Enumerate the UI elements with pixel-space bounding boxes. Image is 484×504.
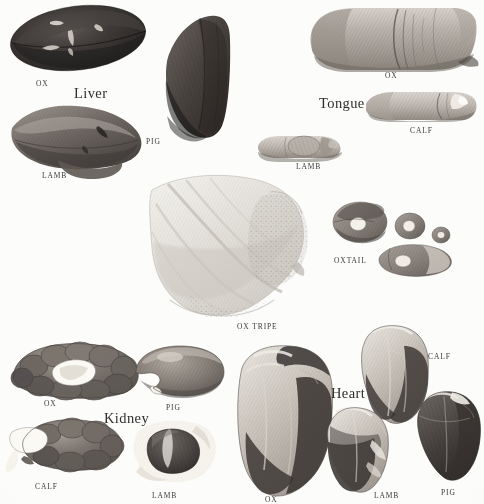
caption-heart-pig: PIG xyxy=(441,489,456,497)
caption-tongue-ox: OX xyxy=(385,72,398,80)
caption-kidney-lamb: LAMB xyxy=(152,492,177,500)
caption-liver-lamb: LAMB xyxy=(42,172,67,180)
caption-liver-pig: PIG xyxy=(146,138,161,146)
caption-ox-tripe: OX TRIPE xyxy=(237,323,278,331)
caption-heart-lamb: LAMB xyxy=(374,492,399,500)
caption-heart-calf: CALF xyxy=(428,353,451,361)
specimen-tongue-calf xyxy=(366,92,477,122)
caption-heart-ox: OX xyxy=(265,496,278,504)
caption-tongue-calf: CALF xyxy=(410,127,433,135)
caption-liver-ox: OX xyxy=(36,80,49,88)
caption-oxtail: OXTAIL xyxy=(334,257,367,265)
section-heading-heart: Heart xyxy=(331,386,365,401)
caption-kidney-pig: PIG xyxy=(166,404,181,412)
section-heading-liver: Liver xyxy=(74,86,107,101)
caption-kidney-calf: CALF xyxy=(35,483,58,491)
caption-kidney-ox: OX xyxy=(44,400,57,408)
specimen-tongue-ox xyxy=(311,8,479,72)
section-heading-kidney: Kidney xyxy=(104,411,149,426)
section-heading-tongue: Tongue xyxy=(319,96,365,111)
specimen-kidney-lamb xyxy=(134,421,216,483)
specimen-heart-lamb xyxy=(328,408,389,493)
caption-tongue-lamb: LAMB xyxy=(296,163,321,171)
